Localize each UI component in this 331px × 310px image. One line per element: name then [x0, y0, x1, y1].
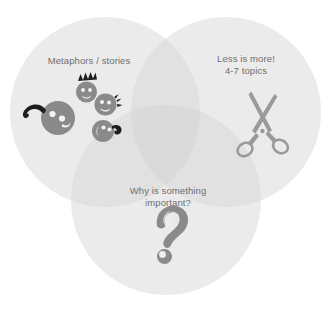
venn-diagram: Metaphors / stories Less is more! 4-7 to… [0, 0, 331, 310]
venn-circles-graphic [0, 0, 331, 310]
label-less-is-more: Less is more! 4-7 topics [186, 53, 306, 76]
label-metaphors-stories: Metaphors / stories [14, 55, 164, 67]
label-why-is-something-important: Why is something important? [108, 185, 228, 208]
